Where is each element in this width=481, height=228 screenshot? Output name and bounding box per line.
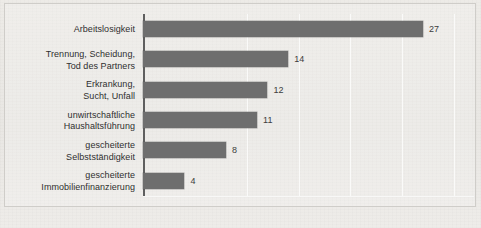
bar-value-label: 27 bbox=[429, 22, 439, 36]
bar bbox=[143, 112, 257, 128]
bar bbox=[143, 51, 288, 67]
category-label-line: Haushaltsführung bbox=[0, 121, 135, 133]
category-label-line: Selbstständigkeit bbox=[0, 152, 135, 164]
category-label-line: Tod des Partners bbox=[0, 61, 135, 73]
bar-row: 12 bbox=[143, 75, 474, 105]
plot-area: 2714121184 bbox=[143, 14, 474, 196]
category-label-line: Trennung, Scheidung, bbox=[0, 49, 135, 61]
category-label-line: Immobilienfinanzierung bbox=[0, 182, 135, 194]
category-label: unwirtschaftlicheHaushaltsführung bbox=[0, 110, 135, 133]
chart-baseline bbox=[143, 196, 474, 197]
bar bbox=[143, 173, 184, 189]
bar-value-label: 12 bbox=[273, 83, 283, 97]
category-label: Trennung, Scheidung,Tod des Partners bbox=[0, 49, 135, 72]
bar bbox=[143, 21, 423, 37]
bar-row: 4 bbox=[143, 166, 474, 196]
bar bbox=[143, 82, 267, 98]
category-label-line: gescheiterte bbox=[0, 140, 135, 152]
category-label-line: gescheiterte bbox=[0, 170, 135, 182]
bar bbox=[143, 142, 226, 158]
category-axis-labels: ArbeitslosigkeitTrennung, Scheidung,Tod … bbox=[0, 14, 139, 196]
bar-row: 27 bbox=[143, 14, 474, 44]
category-label: Arbeitslosigkeit bbox=[0, 24, 135, 36]
bar-row: 14 bbox=[143, 44, 474, 74]
category-label: Erkrankung,Sucht, Unfall bbox=[0, 79, 135, 102]
category-label: gescheiterteImmobilienfinanzierung bbox=[0, 170, 135, 193]
bar-value-label: 14 bbox=[294, 52, 304, 66]
category-label-line: Erkrankung, bbox=[0, 79, 135, 91]
bar-value-label: 8 bbox=[232, 143, 237, 157]
chart-screenshot: ArbeitslosigkeitTrennung, Scheidung,Tod … bbox=[0, 0, 481, 228]
category-label-line: unwirtschaftliche bbox=[0, 110, 135, 122]
bar-value-label: 4 bbox=[190, 174, 195, 188]
bar-row: 11 bbox=[143, 105, 474, 135]
category-label-line: Sucht, Unfall bbox=[0, 91, 135, 103]
bar-value-label: 11 bbox=[263, 113, 273, 127]
category-label: gescheiterteSelbstständigkeit bbox=[0, 140, 135, 163]
bar-row: 8 bbox=[143, 135, 474, 165]
category-label-line: Arbeitslosigkeit bbox=[0, 24, 135, 36]
